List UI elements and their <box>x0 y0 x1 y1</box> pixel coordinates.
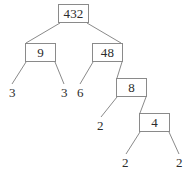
tree-leaf-label: 6 <box>77 86 84 99</box>
tree-edge <box>140 97 146 113</box>
tree-node-box: 432 <box>58 4 89 23</box>
tree-leaf-label: 3 <box>9 86 16 99</box>
tree-node-box: 48 <box>92 43 123 62</box>
tree-edge <box>26 23 60 43</box>
tree-edge <box>101 97 117 117</box>
tree-edge <box>117 62 122 78</box>
tree-node-box: 4 <box>139 113 170 132</box>
tree-edge <box>55 62 64 84</box>
tree-edge <box>87 23 121 43</box>
tree-leaf-label: 3 <box>61 86 68 99</box>
tree-edge <box>126 132 140 154</box>
tree-edges-layer <box>0 0 193 181</box>
tree-node-box: 8 <box>116 78 147 97</box>
tree-leaf-label: 2 <box>122 156 129 169</box>
tree-leaf-label: 2 <box>176 156 183 169</box>
tree-node-box: 9 <box>25 43 56 62</box>
tree-edge <box>12 62 26 84</box>
factor-tree-figure: 43294833682422 <box>0 0 193 181</box>
tree-edge <box>169 132 179 154</box>
tree-edge <box>80 62 93 84</box>
tree-leaf-label: 2 <box>97 119 104 132</box>
